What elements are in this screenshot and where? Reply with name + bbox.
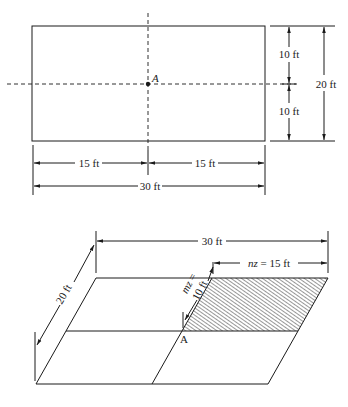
diagram-canvas: A 10 ft 10 ft 20 ft 15 ft 15 ft 30 ft <box>0 0 348 407</box>
plan-view: A 10 ft 10 ft 20 ft 15 ft 15 ft 30 ft <box>7 13 336 195</box>
point-a-marker <box>146 82 150 86</box>
point-a-label-iso: A <box>180 333 188 345</box>
dim-label-right-half: 15 ft <box>195 157 215 169</box>
dim-label-bottom-half: 10 ft <box>279 105 299 117</box>
dim-label-nz: nz = 15 ft <box>248 257 290 269</box>
dim-label-total-height: 20 ft <box>316 78 336 90</box>
dim-label-iso-depth: 20 ft <box>53 282 74 306</box>
dim-label-left-half: 15 ft <box>79 157 99 169</box>
isometric-view: A 30 ft nz = 15 ft 20 ft mz = 10 ft <box>35 231 328 384</box>
dim-label-total-width: 30 ft <box>140 180 160 192</box>
dim-label-iso-width: 30 ft <box>202 235 222 247</box>
dim-arrow-iso-depth <box>37 305 60 345</box>
dim-label-top-half: 10 ft <box>279 48 299 60</box>
point-a-label: A <box>151 72 159 84</box>
